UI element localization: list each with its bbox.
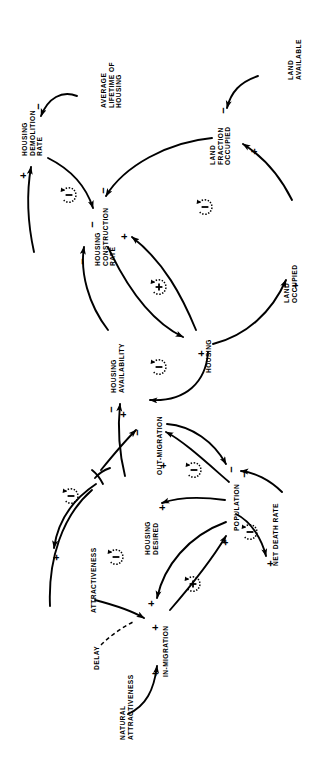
delay-dashed-connector xyxy=(101,622,133,645)
node-attractiveness: ATTRACTIVENESS xyxy=(90,547,98,613)
sign-population-to-deathrate: + xyxy=(265,560,276,566)
loop-marker-housing-availability xyxy=(148,356,170,378)
node-land-fraction-occupied: LAND FRACTION OCCUPIED xyxy=(209,127,232,165)
sign-lifetime-to-demolition: − xyxy=(33,103,44,109)
loop-marker-demolition-housing xyxy=(58,184,80,206)
sign-attractiveness-to-inmigration: + xyxy=(150,624,161,630)
sign-availability-to-attractiveness: + xyxy=(51,554,62,560)
link-available-to-fraction xyxy=(227,76,258,108)
sign-housing-to-construction: + xyxy=(119,233,130,239)
loop-marker-construction-housing xyxy=(148,276,170,298)
node-net-death-rate: NET DEATH RATE xyxy=(272,503,280,566)
link-lifetime-to-demolition xyxy=(41,94,77,116)
sign-deathrate-to-population: − xyxy=(239,471,250,477)
sign-availability-to-construction: − xyxy=(77,258,88,264)
node-housing-demolition-rate: HOUSING DEMOLITION RATE xyxy=(21,110,44,156)
link-housing-to-land-occupied xyxy=(213,280,286,344)
sign-occupied-to-fraction: + xyxy=(249,148,260,154)
link-attractiveness-to-inmigration xyxy=(95,600,144,618)
node-housing-desired: HOUSING DESIRED xyxy=(144,521,159,555)
sign-population-to-desired: + xyxy=(157,504,168,510)
sign-demolition-to-housing: − xyxy=(87,221,98,227)
sign-housing-to-demolition: + xyxy=(18,172,29,178)
link-construction-to-housing xyxy=(108,247,183,337)
node-delay: DELAY xyxy=(93,646,100,670)
loop-marker-population-deathrate xyxy=(239,521,261,543)
node-land-available: LAND AVAILABLE xyxy=(287,39,302,80)
node-natural-attractiveness: NATURAL ATTRACTIVENESS xyxy=(119,674,134,740)
sign-outmigration-to-population: − xyxy=(226,466,237,472)
node-in-migration: IN-MIGRATION xyxy=(162,626,170,677)
sign-availability-to-outmigration: − xyxy=(132,429,143,435)
sign-housing-to-availability: + xyxy=(118,411,129,417)
link-fraction-to-construction xyxy=(106,138,212,196)
link-population-to-desired xyxy=(162,498,225,503)
node-housing-construction-rate: HOUSING CONSTRUCTION RATE xyxy=(94,207,117,266)
sign-inmigration-to-population: + xyxy=(220,539,231,545)
loop-marker-land-fraction xyxy=(194,196,216,218)
sign-population-to-outmigration: + xyxy=(158,462,169,468)
loop-marker-attractiveness xyxy=(60,485,82,507)
sign-housing-to-land-occupied: + xyxy=(290,282,301,288)
loop-marker-outmigration-population xyxy=(183,459,205,481)
node-housing-availability: HOUSING AVAILABILITY xyxy=(110,343,125,393)
loop-marker-attractiveness-lower xyxy=(105,546,127,568)
causal-loop-diagram-canvas: AVERAGE LIFETIME OF HOUSING HOUSING DEMO… xyxy=(0,0,326,781)
sign-fraction-to-construction: − xyxy=(98,187,109,193)
link-outmigration-to-population xyxy=(167,424,226,464)
loop-marker-inmigration-population xyxy=(182,573,204,595)
sign-construction-to-housing: + xyxy=(196,350,207,356)
sign-available-to-fraction: − xyxy=(218,107,229,113)
sign-natural-to-inmigration: + xyxy=(150,670,161,676)
node-avg-lifetime-of-housing: AVERAGE LIFETIME OF HOUSING xyxy=(100,62,123,108)
sign-population-to-inmigration: + xyxy=(146,600,157,606)
sign-desired-to-availability: − xyxy=(106,406,117,412)
link-housing-to-demolition xyxy=(28,167,34,252)
